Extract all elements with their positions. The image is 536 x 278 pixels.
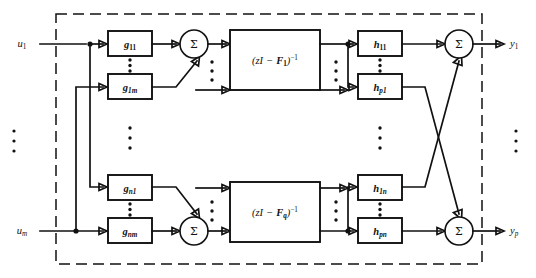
label-input-um: um xyxy=(17,225,27,238)
ellipsis-left-outside xyxy=(12,129,15,152)
label-input-u1: u1 xyxy=(18,38,27,51)
wire-tf1-to-hp1 xyxy=(348,44,353,87)
wire-u1-to-gn1 xyxy=(90,44,103,187)
ellipsis-g11-g1m xyxy=(128,58,131,72)
ellipsis-tf-in-top xyxy=(210,60,213,81)
label-summer-bottom-left: Σ xyxy=(190,225,198,238)
block-diagram-figure: u1 um y1 yp g11 g1m gn1 gnm h11 hp1 xyxy=(0,0,536,278)
label-output-yp: yp xyxy=(509,225,519,238)
ellipsis-right-outside xyxy=(514,129,517,152)
ellipsis-tf-out-top xyxy=(334,60,337,81)
wire-gn1-to-sum xyxy=(152,187,197,214)
block-diagram-canvas: u1 um y1 yp g11 g1m gn1 gnm h11 hp1 xyxy=(0,0,536,278)
block-transfer-q xyxy=(230,182,320,242)
wire-tfq-to-h1n xyxy=(348,187,353,231)
ellipsis-g-column xyxy=(128,126,131,149)
ellipsis-tf-in-bottom xyxy=(210,200,213,221)
block-transfer-1 xyxy=(230,30,320,90)
wire-h1n-to-sum-top xyxy=(402,61,459,187)
ellipsis-h11-hp1 xyxy=(378,58,381,72)
label-summer-bottom-right: Σ xyxy=(455,225,463,238)
wire-g1m-to-sum xyxy=(152,61,197,87)
label-summer-top-right: Σ xyxy=(455,38,463,51)
wire-hp1-to-sum-bottom xyxy=(402,87,459,214)
ellipsis-gn1-gnm xyxy=(128,202,131,216)
label-output-y1: y1 xyxy=(509,38,519,51)
label-summer-top-left: Σ xyxy=(190,38,198,51)
ellipsis-h1n-hpn xyxy=(378,202,381,216)
ellipsis-h-column xyxy=(378,126,381,149)
ellipsis-tf-out-bottom xyxy=(334,200,337,221)
